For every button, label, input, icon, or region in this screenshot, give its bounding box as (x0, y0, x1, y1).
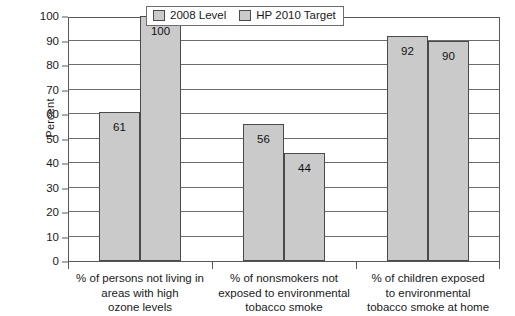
y-axis-tick-label: 0 (53, 256, 59, 268)
bar-chart-figure: Percent 1009080706050403020100 611005644… (0, 0, 515, 316)
legend-item: 2008 Level (153, 10, 226, 22)
bar-value-label: 56 (244, 134, 283, 146)
legend-item: HP 2010 Target (239, 10, 336, 22)
x-axis-labels: % of persons not living inareas with hig… (68, 271, 500, 315)
legend-label: 2008 Level (170, 10, 226, 22)
x-axis-tick-mark (356, 262, 357, 269)
bar: 90 (428, 41, 469, 262)
y-axis-tick-label: 20 (46, 207, 59, 219)
x-axis-category-label-line: ozone levels (71, 300, 209, 315)
x-axis-category-label-line: exposed to environmental (215, 286, 353, 301)
legend-swatch (153, 10, 165, 21)
x-axis-ticks (68, 262, 500, 269)
bar-value-label: 61 (100, 122, 139, 134)
x-axis-category-label: % of persons not living inareas with hig… (68, 271, 212, 315)
x-axis-category-label-line: tobacco smoke at home (359, 300, 497, 315)
y-axis-tick-label: 10 (46, 232, 59, 244)
bar-value-label: 100 (141, 26, 180, 38)
bar-value-label: 44 (285, 163, 324, 175)
bar-value-label: 90 (429, 51, 468, 63)
x-axis-category-label: % of nonsmokers notexposed to environmen… (212, 271, 356, 315)
x-axis-tick-mark (212, 262, 213, 269)
y-axis-tick-label: 80 (46, 60, 59, 72)
x-axis-category-label: % of children exposedto environmentaltob… (356, 271, 500, 315)
bar: 56 (243, 124, 284, 261)
y-axis-tick-label: 60 (46, 109, 59, 121)
x-axis-tick-mark (68, 262, 69, 269)
x-axis-tick-mark (499, 262, 500, 269)
y-axis-tick-label: 90 (46, 36, 59, 48)
x-axis-category-label-line: % of nonsmokers not (215, 271, 353, 286)
legend: 2008 LevelHP 2010 Target (146, 6, 344, 26)
x-axis-category-label-line: to environmental (359, 286, 497, 301)
x-axis-category-label-line: areas with high (71, 286, 209, 301)
bar: 61 (99, 112, 140, 261)
y-axis-tick-label: 30 (46, 183, 59, 195)
y-axis-tick-label: 40 (46, 158, 59, 170)
bar: 100 (140, 16, 181, 261)
y-axis-tick-label: 70 (46, 85, 59, 97)
legend-swatch (239, 10, 251, 21)
y-axis-tick-label: 50 (46, 134, 59, 146)
y-axis-tick-label: 100 (40, 11, 59, 23)
plot-area: 6110056449290 (68, 17, 500, 262)
x-axis-category-label-line: % of children exposed (359, 271, 497, 286)
bar: 44 (284, 153, 325, 261)
bar-value-label: 92 (388, 46, 427, 58)
y-axis: 1009080706050403020100 (0, 17, 68, 262)
x-axis-category-label-line: tobacco smoke (215, 300, 353, 315)
x-axis-category-label-line: % of persons not living in (71, 271, 209, 286)
legend-label: HP 2010 Target (256, 10, 336, 22)
bar: 92 (387, 36, 428, 261)
